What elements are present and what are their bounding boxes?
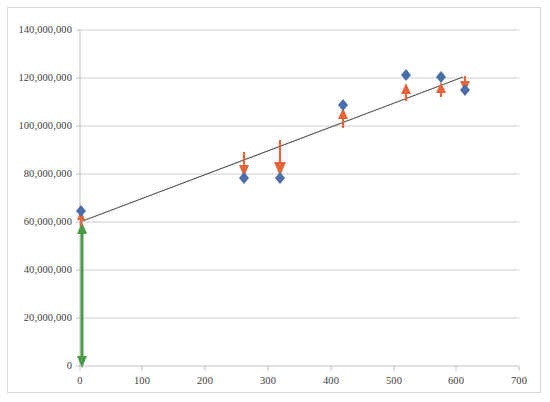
y-tick-label-40m: 40,000,000 <box>0 264 72 275</box>
y-tick-label-80m: 80,000,000 <box>0 168 72 179</box>
scatter-plot <box>0 0 550 402</box>
data-point-x500 <box>401 69 411 81</box>
data-point-x600 <box>460 84 470 96</box>
residual-arrow-x300 <box>274 140 286 176</box>
x-tick-label-300: 300 <box>248 375 288 386</box>
x-tick-label-0: 0 <box>60 375 100 386</box>
data-point-x400 <box>338 99 348 111</box>
residual-head-x500 <box>401 83 411 94</box>
data-markers <box>76 69 470 217</box>
x-tick-label-600: 600 <box>436 375 476 386</box>
data-point-x0 <box>76 205 86 217</box>
y-tick-label-20m: 20,000,000 <box>0 312 72 323</box>
x-tick-label-700: 700 <box>499 375 539 386</box>
x-tick-label-200: 200 <box>185 375 225 386</box>
y-tick-label-0: 0 <box>0 360 72 371</box>
x-axis <box>80 366 519 371</box>
residual-arrow-x500 <box>401 83 411 101</box>
y-tick-label-140m: 140,000,000 <box>0 24 72 35</box>
x-tick-label-500: 500 <box>374 375 414 386</box>
y-tick-label-120m: 120,000,000 <box>0 72 72 83</box>
residual-arrows <box>77 76 470 226</box>
y-tick-label-60m: 60,000,000 <box>0 216 72 227</box>
y-axis <box>76 30 80 366</box>
y-tick-label-100m: 100,000,000 <box>0 120 72 131</box>
data-point-x555 <box>436 71 446 83</box>
gridlines <box>80 30 519 318</box>
x-tick-label-100: 100 <box>122 375 162 386</box>
x-tick-label-400: 400 <box>311 375 351 386</box>
intercept-indicator-arrow <box>77 222 87 368</box>
